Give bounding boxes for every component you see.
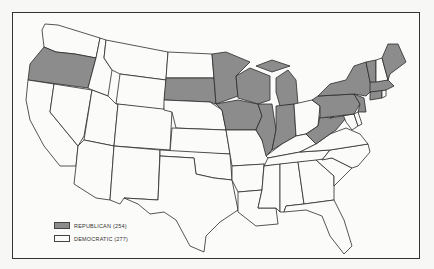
state-KS bbox=[170, 128, 230, 154]
state-WI bbox=[236, 68, 270, 104]
legend-item-democratic: DEMOCRATIC (277) bbox=[54, 232, 128, 245]
state-NM bbox=[110, 146, 160, 204]
state-NY bbox=[318, 62, 372, 96]
republican-swatch bbox=[54, 222, 70, 229]
legend-item-republican: REPUBLICAN (254) bbox=[54, 219, 128, 232]
state-AZ bbox=[74, 140, 114, 200]
democratic-swatch bbox=[54, 235, 70, 242]
state-RI bbox=[382, 90, 386, 98]
state-MT bbox=[104, 40, 168, 80]
legend-label-republican: REPUBLICAN (254) bbox=[74, 223, 127, 229]
state-ND bbox=[166, 52, 214, 78]
state-FL bbox=[284, 200, 352, 254]
state-CO bbox=[114, 104, 172, 150]
map-legend: REPUBLICAN (254) DEMOCRATIC (277) bbox=[54, 219, 128, 245]
state-AR bbox=[232, 164, 264, 192]
legend-label-democratic: DEMOCRATIC (277) bbox=[74, 236, 128, 242]
